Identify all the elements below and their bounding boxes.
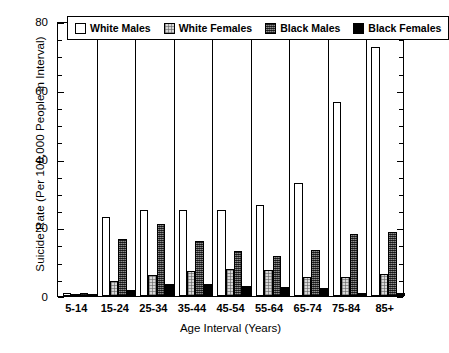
x-axis-tick-labels: 5-1415-2425-3435-4445-5455-6465-7475-848… xyxy=(57,302,404,318)
category-separator xyxy=(328,23,329,296)
bar-black-males-85+ xyxy=(388,232,396,296)
y-axis-major-tick xyxy=(397,229,403,230)
x-axis-tick-label: 5-14 xyxy=(57,302,96,314)
y-axis-minor-tick xyxy=(58,264,62,265)
bar-black-males-65-74 xyxy=(311,250,319,296)
category-separator xyxy=(97,23,98,296)
category-separator xyxy=(174,23,175,296)
bar-white-males-25-34 xyxy=(140,210,148,296)
y-axis-minor-tick xyxy=(399,126,403,127)
y-axis-minor-tick xyxy=(58,57,62,58)
bar-white-females-75-84 xyxy=(341,277,349,296)
bar-black-males-75-84 xyxy=(350,234,358,296)
bar-white-males-5-14 xyxy=(63,293,71,296)
legend-entry: Black Females xyxy=(353,22,441,34)
bar-black-females-5-14 xyxy=(88,294,96,296)
y-axis-minor-tick xyxy=(399,264,403,265)
bar-white-males-55-64 xyxy=(256,205,264,296)
category-separator xyxy=(135,23,136,296)
y-axis-minor-tick xyxy=(58,143,62,144)
category-separator xyxy=(212,23,213,296)
bar-white-females-45-54 xyxy=(226,269,234,297)
x-axis-tick-label: 25-34 xyxy=(134,302,173,314)
y-axis-major-tick xyxy=(58,229,64,230)
bar-black-males-15-24 xyxy=(118,239,126,296)
y-axis-minor-tick xyxy=(399,75,403,76)
bar-white-females-25-34 xyxy=(148,275,156,296)
y-axis-minor-tick xyxy=(58,178,62,179)
y-axis-minor-tick xyxy=(399,246,403,247)
bar-black-males-5-14 xyxy=(80,293,88,296)
bar-white-males-85+ xyxy=(371,47,379,296)
y-axis-minor-tick xyxy=(399,281,403,282)
bar-black-males-45-54 xyxy=(234,251,242,296)
bar-black-females-15-24 xyxy=(127,290,135,296)
y-axis-major-tick xyxy=(58,297,64,298)
bar-white-females-5-14 xyxy=(71,294,79,296)
legend-entry: Black Males xyxy=(265,22,340,34)
bar-white-females-35-44 xyxy=(187,271,195,296)
y-axis-minor-tick xyxy=(58,212,62,213)
bar-white-females-85+ xyxy=(380,274,388,296)
legend-label: White Females xyxy=(179,22,253,34)
y-axis-major-tick xyxy=(58,23,64,24)
category-separator xyxy=(289,23,290,296)
y-axis-minor-tick xyxy=(58,246,62,247)
bar-black-females-45-54 xyxy=(242,286,250,296)
x-axis-tick-label: 55-64 xyxy=(250,302,289,314)
y-axis-minor-tick xyxy=(399,212,403,213)
bar-black-females-85+ xyxy=(397,293,405,296)
y-axis-major-tick xyxy=(397,297,403,298)
x-axis-tick-label: 85+ xyxy=(365,302,404,314)
y-axis-minor-tick xyxy=(399,57,403,58)
y-axis-tick-label: 0 xyxy=(26,292,48,302)
category-separator xyxy=(251,23,252,296)
bar-black-females-35-44 xyxy=(204,284,212,296)
y-axis-minor-tick xyxy=(58,75,62,76)
legend-entry: White Females xyxy=(164,22,253,34)
x-axis-tick-label: 45-54 xyxy=(211,302,250,314)
y-axis-major-tick xyxy=(397,161,403,162)
bar-black-males-25-34 xyxy=(157,224,165,296)
y-axis-tick-label: 80 xyxy=(26,17,48,27)
y-axis-tick-labels: 020406080 xyxy=(22,0,48,353)
legend-label: White Males xyxy=(90,22,151,34)
bar-black-males-55-64 xyxy=(273,256,281,296)
bar-white-females-65-74 xyxy=(303,277,311,296)
y-axis-tick-label: 20 xyxy=(26,223,48,233)
x-axis-tick-label: 15-24 xyxy=(96,302,135,314)
bar-white-males-65-74 xyxy=(294,183,302,296)
light-stipple-square-icon xyxy=(164,23,175,34)
y-axis-minor-tick xyxy=(58,40,62,41)
solid-black-square-icon xyxy=(353,23,364,34)
y-axis-tick-label: 40 xyxy=(26,155,48,165)
legend-label: Black Males xyxy=(280,22,340,34)
bar-white-females-55-64 xyxy=(264,270,272,296)
x-axis-title: Age Interval (Years) xyxy=(57,322,404,334)
open-white-square-icon xyxy=(75,23,86,34)
bar-white-males-15-24 xyxy=(102,217,110,296)
y-axis-minor-tick xyxy=(399,40,403,41)
x-axis-tick-label: 75-84 xyxy=(327,302,366,314)
bar-white-males-35-44 xyxy=(179,210,187,296)
y-axis-minor-tick xyxy=(58,281,62,282)
y-axis-minor-tick xyxy=(58,195,62,196)
y-axis-minor-tick xyxy=(399,178,403,179)
x-axis-tick-label: 65-74 xyxy=(288,302,327,314)
y-axis-major-tick xyxy=(397,92,403,93)
dark-checker-square-icon xyxy=(265,23,276,34)
bar-white-females-15-24 xyxy=(110,281,118,296)
y-axis-tick-label: 60 xyxy=(26,86,48,96)
x-axis-tick-label: 35-44 xyxy=(173,302,212,314)
bar-black-females-65-74 xyxy=(320,288,328,296)
y-axis-minor-tick xyxy=(58,109,62,110)
chart-legend: White MalesWhite FemalesBlack MalesBlack… xyxy=(67,16,449,40)
y-axis-major-tick xyxy=(58,92,64,93)
bar-black-males-35-44 xyxy=(195,241,203,296)
bar-black-females-25-34 xyxy=(165,284,173,296)
y-axis-major-tick xyxy=(58,161,64,162)
y-axis-minor-tick xyxy=(399,195,403,196)
y-axis-minor-tick xyxy=(58,126,62,127)
y-axis-minor-tick xyxy=(399,143,403,144)
y-axis-minor-tick xyxy=(399,109,403,110)
